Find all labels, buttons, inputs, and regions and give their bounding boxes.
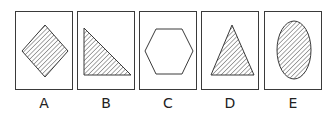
rotated-square-icon bbox=[16, 12, 74, 91]
option-e-label: E bbox=[264, 95, 322, 111]
option-c-panel[interactable] bbox=[139, 11, 197, 90]
option-c-label: C bbox=[139, 95, 197, 111]
ellipse-icon bbox=[265, 12, 323, 91]
option-d-panel[interactable] bbox=[201, 11, 259, 90]
hexagon-icon bbox=[140, 12, 198, 91]
right-triangle-icon bbox=[78, 12, 136, 91]
option-d-label: D bbox=[201, 95, 259, 111]
triangle-icon bbox=[202, 12, 260, 91]
option-a-panel[interactable] bbox=[15, 11, 73, 90]
option-a-label: A bbox=[15, 95, 73, 111]
option-e-panel[interactable] bbox=[264, 11, 322, 90]
option-b-panel[interactable] bbox=[77, 11, 135, 90]
option-b-label: B bbox=[77, 95, 135, 111]
